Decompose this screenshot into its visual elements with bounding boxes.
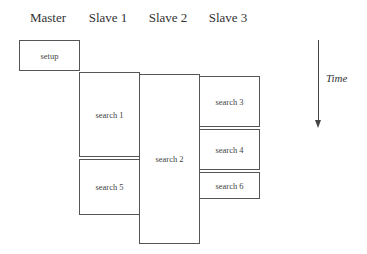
task-search-1: search 1	[79, 72, 140, 157]
task-label: search 3	[215, 97, 243, 107]
task-label: search 5	[95, 182, 123, 192]
task-search-5: search 5	[79, 159, 140, 215]
task-label: setup	[41, 51, 59, 61]
task-search-4: search 4	[199, 129, 260, 170]
column-header-slave-2: Slave 2	[149, 10, 188, 26]
column-header-master: Master	[30, 10, 66, 26]
task-label: search 6	[215, 181, 243, 191]
column-header-slave-1: Slave 1	[89, 10, 128, 26]
task-setup: setup	[19, 40, 80, 71]
time-axis-label: Time	[326, 72, 347, 84]
task-search-2: search 2	[139, 74, 200, 244]
task-search-6: search 6	[199, 172, 260, 199]
task-search-3: search 3	[199, 76, 260, 127]
column-header-slave-3: Slave 3	[209, 10, 248, 26]
task-label: search 2	[155, 154, 183, 164]
time-arrow-line	[318, 40, 319, 122]
time-arrow-head-icon	[315, 120, 321, 128]
task-label: search 4	[215, 145, 243, 155]
task-label: search 1	[95, 110, 123, 120]
